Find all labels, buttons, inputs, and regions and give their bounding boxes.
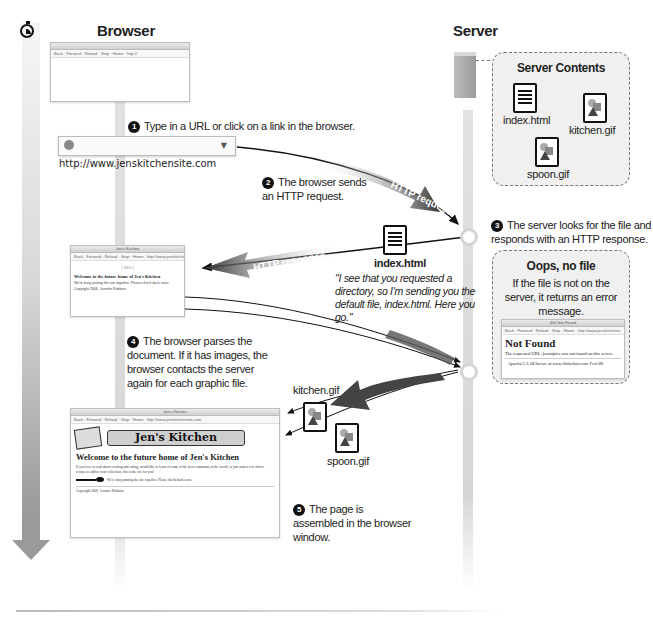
image-file-icon	[335, 423, 359, 453]
error-title: Oops, no file	[493, 259, 629, 273]
step-3: 3The server looks for the file and respo…	[491, 218, 653, 246]
spoon-image	[76, 479, 96, 481]
server-contents-title: Server Contents	[493, 61, 629, 75]
page-heading: Welcome to the future home of Jen's Kitc…	[71, 448, 279, 464]
final-page-window: Jen's Kitchen Back · Forward · Reload · …	[70, 408, 280, 538]
server-node	[460, 228, 478, 246]
page-note: We're busy putting the site together. Pl…	[107, 478, 192, 482]
server-tower-icon	[454, 52, 476, 98]
page-paragraph: If you love to read about cooking and ea…	[71, 464, 279, 475]
image-file-icon	[303, 402, 327, 432]
html-document-icon	[513, 83, 537, 113]
browser-toolbar[interactable]: Back · Forward · Reload · Stop · Home · …	[71, 253, 184, 261]
step-4: 4The browser parses the document. If it …	[127, 334, 277, 390]
connector-line	[476, 60, 490, 61]
browser-toolbar[interactable]: Back · Forward · Reload · Stop · Home · …	[71, 416, 279, 424]
http-request-label: HTTP request	[389, 179, 453, 217]
document-icon	[383, 225, 407, 255]
transfer-kitchen-gif: kitchen.gif	[293, 384, 339, 396]
server-contents-panel: Server Contents index.html kitchen.gif s…	[492, 52, 630, 186]
footer-rule	[16, 610, 501, 612]
file-index-html: index.html	[503, 114, 550, 126]
partial-page-window: Jen's Kitchen Back · Forward · Reload · …	[70, 245, 185, 317]
kitchen-illustration	[74, 426, 103, 449]
file-spoon-gif: spoon.gif	[527, 168, 569, 180]
window-titlebar: 404 Not Found	[502, 320, 624, 327]
error-description: If the file is not on the server, it ret…	[501, 276, 621, 318]
page-copyright: Copyright 2006, Jennifer Robbins	[76, 486, 274, 493]
site-logo: Jen's Kitchen	[107, 430, 245, 446]
server-node	[460, 363, 478, 381]
not-found-window: 404 Not Found Back · Forward · Reload · …	[501, 319, 625, 379]
window-titlebar: Jen's Kitchen	[71, 246, 184, 253]
response-quote: "I see that you requested a directory, s…	[335, 272, 485, 324]
not-found-heading: Not Found	[502, 335, 624, 349]
browser-toolbar[interactable]: Back · Forward · Reload · Stop · Home · …	[502, 327, 624, 335]
page-copyright: Copyright 2006, Jennifer Robbins	[71, 286, 184, 292]
server-signature: Apache/1.3.34 Server at www.littlechair.…	[505, 358, 621, 368]
image-file-icon	[535, 137, 559, 167]
page-heading: Welcome to the future home of Jen's Kitc…	[71, 270, 184, 280]
image-file-icon	[583, 93, 607, 123]
window-titlebar: Jen's Kitchen	[71, 409, 279, 416]
step-5: 5The page is assembled in the browser wi…	[293, 502, 413, 544]
file-kitchen-gif: kitchen.gif	[569, 124, 615, 136]
step-2: 2The browser sends an HTTP request.	[262, 175, 372, 203]
response-file-name: index.html	[374, 257, 426, 269]
not-found-body: The requested URL /jenssipics was not fo…	[502, 349, 624, 358]
error-panel: Oops, no file If the file is not on the …	[492, 250, 630, 384]
transfer-spoon-gif: spoon.gif	[327, 455, 369, 467]
